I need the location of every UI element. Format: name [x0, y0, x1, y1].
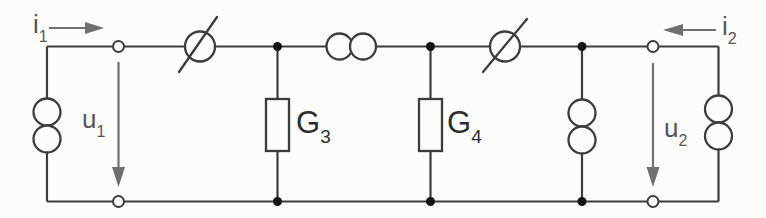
- g4-rect: [419, 99, 442, 151]
- converter-left-symbol: [179, 17, 217, 72]
- circuit-svg: G3 G4: [0, 0, 766, 218]
- u2-arrow-head: [647, 167, 660, 187]
- source-inner-circle-top: [569, 100, 596, 127]
- wires: [47, 47, 719, 202]
- junction-dot: [273, 42, 282, 51]
- i1-label: i1: [33, 9, 48, 45]
- source-right-symbol: [705, 96, 732, 150]
- u2-label: u2: [664, 113, 687, 149]
- transformer-circle-right: [350, 34, 376, 60]
- conductance-g3-symbol: G3: [266, 99, 331, 151]
- i1-annotation: i1: [33, 9, 104, 45]
- transformer-circle-left: [327, 34, 353, 60]
- conductance-g4-symbol: G4: [419, 99, 482, 151]
- g3-rect: [266, 99, 289, 151]
- source-left-circle-bottom: [34, 126, 61, 153]
- g3-label: G3: [296, 105, 331, 147]
- source-left-circle-top: [34, 99, 61, 126]
- port1-terminal-top: [113, 41, 124, 52]
- source-inner-circle-bottom: [569, 127, 596, 154]
- source-right-circle-top: [705, 96, 732, 123]
- junction-dot: [273, 197, 282, 206]
- junction-dot: [578, 42, 587, 51]
- u1-label: u1: [82, 104, 105, 140]
- converter-right-symbol: [483, 19, 527, 72]
- junction-dot: [578, 197, 587, 206]
- junction-dot: [426, 197, 435, 206]
- junction-dot: [426, 42, 435, 51]
- source-left-symbol: [34, 99, 61, 153]
- ideal-transformer-symbol: [327, 34, 377, 60]
- port1-terminal-bottom: [113, 196, 124, 207]
- source-right-circle-bottom: [705, 123, 732, 150]
- i2-arrow-head: [663, 24, 683, 36]
- u1-arrow-head: [112, 167, 125, 187]
- source-inner-right-symbol: [569, 100, 596, 154]
- circuit-diagram: G3 G4: [0, 0, 766, 218]
- i2-annotation: i2: [663, 11, 737, 47]
- u2-annotation: u2: [647, 63, 688, 187]
- i1-arrow-head: [85, 22, 104, 34]
- u1-annotation: u1: [82, 62, 125, 187]
- port2-terminal-top: [648, 41, 659, 52]
- port2-terminal-bottom: [648, 196, 659, 207]
- i2-label: i2: [722, 11, 737, 47]
- g4-label: G4: [447, 105, 482, 147]
